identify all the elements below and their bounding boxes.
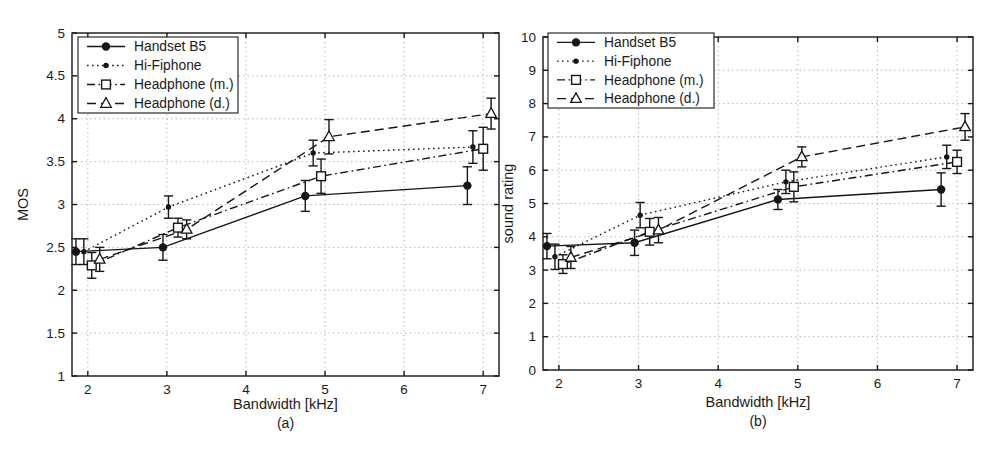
- subplot-caption: (a): [277, 415, 294, 431]
- data-point-marker: [463, 181, 471, 189]
- y-axis-label: sound rating: [501, 164, 516, 244]
- svg-text:7: 7: [479, 382, 487, 397]
- svg-text:3: 3: [57, 197, 65, 212]
- data-point-marker: [166, 204, 171, 209]
- svg-text:6: 6: [874, 376, 882, 391]
- svg-text:0: 0: [528, 363, 536, 378]
- data-point-marker: [774, 195, 782, 203]
- series-line-headphone-m: [563, 162, 957, 264]
- legend-marker-filled-dot-icon: [103, 63, 108, 68]
- svg-text:6: 6: [400, 382, 408, 397]
- data-point-marker: [637, 212, 642, 217]
- series-line-handset-b5: [76, 186, 467, 252]
- data-point-marker: [174, 223, 183, 232]
- data-point-marker: [944, 154, 949, 159]
- svg-text:5: 5: [528, 196, 536, 211]
- data-point-marker: [479, 144, 488, 153]
- x-tick-labels: 234567: [555, 376, 961, 391]
- data-point-marker: [789, 182, 798, 191]
- y-tick-labels: 11.522.533.544.55: [46, 26, 65, 384]
- data-point-marker: [81, 249, 86, 254]
- legend-label: Handset B5: [604, 35, 676, 50]
- legend-label: Handset B5: [134, 39, 206, 54]
- legend-label: Headphone (d.): [604, 91, 700, 106]
- y-axis-label: MOS: [15, 188, 31, 221]
- series-line-hi-fiphone: [84, 147, 473, 252]
- svg-text:4: 4: [528, 229, 536, 244]
- legend-label: Hi-Fiphone: [604, 54, 672, 69]
- svg-text:8: 8: [528, 96, 536, 111]
- svg-text:7: 7: [528, 129, 536, 144]
- legend-marker-open-square-icon: [102, 80, 111, 89]
- svg-text:5: 5: [794, 376, 802, 391]
- legend-label: Hi-Fiphone: [134, 58, 202, 73]
- legend-label: Headphone (d.): [134, 96, 230, 111]
- svg-text:2: 2: [555, 376, 563, 391]
- data-point-marker: [783, 179, 788, 184]
- series-line-handset-b5: [547, 190, 941, 247]
- legend-marker-open-square-icon: [572, 75, 581, 84]
- svg-text:2.5: 2.5: [46, 240, 65, 255]
- data-point-marker: [552, 254, 557, 259]
- svg-text:2: 2: [57, 283, 65, 298]
- svg-text:7: 7: [953, 376, 961, 391]
- data-point-marker: [301, 192, 309, 200]
- svg-text:3: 3: [163, 382, 171, 397]
- data-point-marker: [953, 157, 962, 166]
- legend-marker-filled-circle-icon: [102, 42, 110, 50]
- data-point-marker: [72, 247, 80, 255]
- svg-text:10: 10: [521, 30, 536, 45]
- data-point-marker: [543, 242, 551, 250]
- svg-text:1: 1: [57, 369, 65, 384]
- x-tick-labels: 234567: [84, 382, 487, 397]
- legend: Handset B5Hi-FiphoneHeadphone (m.)Headph…: [548, 33, 714, 108]
- svg-text:5: 5: [321, 382, 329, 397]
- legend-marker-filled-dot-icon: [573, 58, 578, 63]
- data-point-marker: [960, 121, 971, 131]
- svg-text:4: 4: [57, 111, 65, 126]
- chart-b-sound-rating-vs-bandwidth: 234567012345678910Bandwidth [kHz]sound r…: [501, 0, 1002, 455]
- data-point-marker: [159, 243, 167, 251]
- data-point-marker: [630, 239, 638, 247]
- legend: Handset B5Hi-FiphoneHeadphone (m.)Headph…: [78, 37, 238, 113]
- data-point-marker: [470, 144, 475, 149]
- data-point-marker: [645, 227, 654, 236]
- svg-text:4: 4: [714, 376, 722, 391]
- two-panel-line-chart-figure: 23456711.522.533.544.55Bandwidth [kHz]MO…: [0, 0, 1002, 455]
- svg-text:4: 4: [242, 382, 250, 397]
- legend-label: Headphone (m.): [604, 73, 704, 88]
- subplot-caption: (b): [749, 413, 766, 429]
- error-bars-and-markers-handset-b5: [71, 167, 472, 265]
- error-bars-and-markers-headphone-m: [558, 150, 961, 273]
- data-point-marker: [310, 150, 315, 155]
- svg-text:2: 2: [528, 296, 536, 311]
- svg-text:2: 2: [84, 382, 92, 397]
- svg-text:3.5: 3.5: [46, 154, 65, 169]
- svg-text:1.5: 1.5: [46, 326, 65, 341]
- chart-a-mos-vs-bandwidth: 23456711.522.533.544.55Bandwidth [kHz]MO…: [0, 0, 501, 455]
- series-line-headphone-d: [100, 114, 491, 260]
- svg-text:4.5: 4.5: [46, 68, 65, 83]
- data-point-marker: [317, 172, 326, 181]
- svg-text:3: 3: [528, 263, 536, 278]
- x-axis-label: Bandwidth [kHz]: [233, 396, 338, 412]
- svg-text:1: 1: [528, 329, 536, 344]
- svg-text:3: 3: [635, 376, 643, 391]
- svg-text:5: 5: [57, 26, 65, 41]
- x-axis-label: Bandwidth [kHz]: [706, 394, 811, 410]
- data-point-marker: [486, 108, 497, 118]
- data-point-marker: [937, 185, 945, 193]
- svg-text:6: 6: [528, 163, 536, 178]
- y-tick-labels: 012345678910: [521, 30, 537, 378]
- legend-marker-filled-circle-icon: [572, 38, 580, 46]
- legend-label: Headphone (m.): [134, 77, 234, 92]
- svg-text:9: 9: [528, 63, 536, 78]
